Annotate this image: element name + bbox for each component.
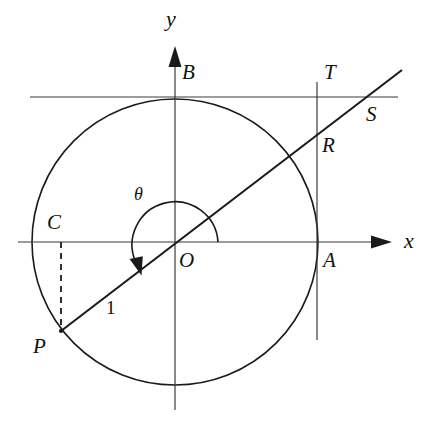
- diagram-canvas: [0, 0, 428, 426]
- point-label-A: A: [323, 250, 336, 271]
- radius-length-label: 1: [106, 298, 116, 317]
- point-label-S: S: [366, 104, 377, 125]
- point-label-T: T: [324, 62, 336, 83]
- point-label-P: P: [33, 336, 46, 357]
- y-axis-label: y: [166, 8, 176, 30]
- y-axis-arrowhead: [169, 46, 182, 67]
- x-axis-arrowhead: [371, 236, 392, 249]
- point-label-C: C: [47, 212, 61, 233]
- point-label-B: B: [182, 62, 195, 83]
- point-dot-p: [59, 329, 63, 333]
- point-label-O: O: [179, 250, 194, 271]
- geometry-figure: y x B T S R θ C O A 1 P: [0, 0, 428, 426]
- angle-theta-label: θ: [134, 185, 143, 203]
- secant-ray-line: [61, 70, 402, 331]
- x-axis-label: x: [404, 230, 414, 252]
- point-label-R: R: [322, 135, 335, 156]
